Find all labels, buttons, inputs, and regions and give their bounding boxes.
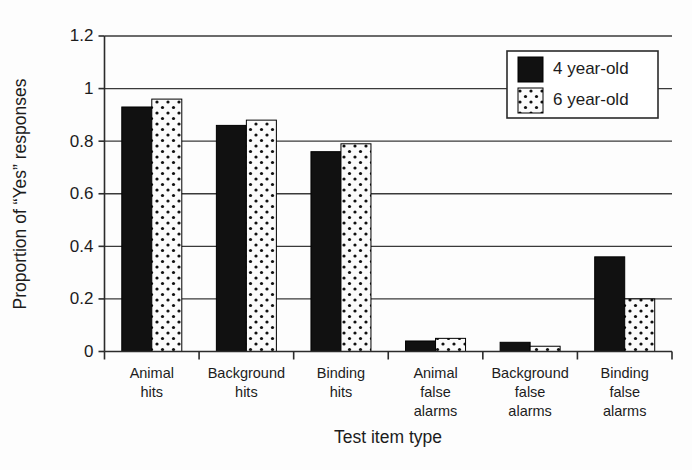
- y-tick-label: 0.8: [70, 132, 94, 151]
- bar: [625, 299, 655, 352]
- bar: [311, 152, 341, 352]
- bar: [122, 107, 152, 352]
- x-category-label: Bindinghits: [317, 365, 365, 400]
- figure-canvas: 00.20.40.60.811.2 AnimalhitsBackgroundhi…: [0, 0, 692, 470]
- legend-label: 4 year-old: [553, 59, 629, 78]
- x-category-label: Backgroundfalsealarms: [491, 365, 568, 419]
- y-axis-title: Proportion of “Yes” responses: [10, 78, 30, 309]
- x-axis-ticks: [105, 352, 673, 360]
- legend-swatch: [518, 88, 543, 113]
- bars-group: [122, 99, 655, 351]
- y-tick-label: 1.2: [70, 26, 94, 45]
- chart-legend: 4 year-old6 year-old: [507, 51, 658, 118]
- bar: [595, 257, 625, 352]
- bar: [406, 341, 436, 352]
- y-tick-label: 0.2: [70, 289, 94, 308]
- bar: [500, 342, 530, 351]
- x-axis-category-labels: AnimalhitsBackgroundhitsBindinghitsAnima…: [130, 365, 649, 419]
- legend-label: 6 year-old: [553, 90, 629, 109]
- y-tick-label: 1: [84, 79, 93, 98]
- y-tick-label: 0: [84, 342, 93, 361]
- bar-chart: 00.20.40.60.811.2 AnimalhitsBackgroundhi…: [0, 0, 692, 470]
- x-axis-title: Test item type: [334, 427, 442, 447]
- bar: [216, 125, 246, 351]
- y-tick-label: 0.4: [70, 237, 94, 256]
- x-category-label: Backgroundhits: [208, 365, 285, 400]
- bar: [341, 144, 371, 352]
- x-category-label: Animalfalsealarms: [413, 365, 457, 419]
- bar: [246, 120, 276, 351]
- bar: [436, 338, 466, 351]
- y-tick-label: 0.6: [70, 184, 94, 203]
- x-category-label: Animalhits: [130, 365, 174, 400]
- bar: [152, 99, 182, 351]
- legend-swatch: [518, 57, 543, 82]
- y-axis-ticks: 00.20.40.60.811.2: [70, 26, 105, 361]
- x-category-label: Bindingfalsealarms: [601, 365, 649, 419]
